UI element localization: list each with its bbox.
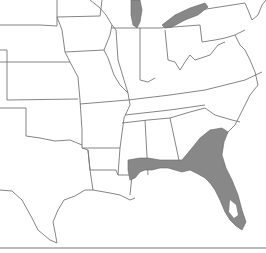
southeast-range [128,128,246,230]
state-border-north [0,0,57,26]
lake-michigan [131,0,142,28]
range-map [0,0,266,253]
range-shading [128,0,246,230]
lake-erie [162,3,208,28]
